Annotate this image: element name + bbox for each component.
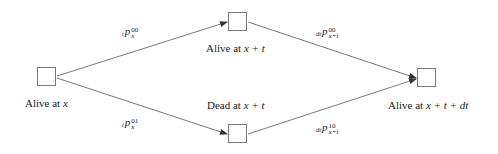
state-box-alive-x bbox=[37, 67, 56, 86]
label-dead-xt: Dead at x + t bbox=[207, 99, 265, 111]
label-var: x + t + dt bbox=[426, 99, 468, 111]
prob-prefix: t bbox=[122, 30, 124, 37]
label-var: x + t bbox=[244, 42, 265, 54]
edge-alive-x-to-dead-xt bbox=[57, 78, 227, 134]
label-text: Alive at bbox=[25, 97, 63, 109]
prob-sub: x+t bbox=[329, 33, 339, 39]
state-box-alive-xt bbox=[228, 12, 247, 31]
label-alive-xtdt: Alive at x + t + dt bbox=[388, 99, 468, 111]
prob-label-10-xt: dtp10x+t bbox=[316, 122, 338, 135]
prob-sub: x+t bbox=[329, 129, 339, 135]
prob-base: p bbox=[322, 121, 328, 133]
prob-prefix: t bbox=[122, 121, 124, 128]
state-box-dead-xt bbox=[228, 124, 247, 143]
state-box-alive-xtdt bbox=[417, 68, 436, 87]
prob-prefix: dt bbox=[316, 126, 321, 133]
edge-alive-x-to-alive-xt bbox=[57, 22, 227, 76]
prob-label-00-xt: dtp00x+t bbox=[316, 26, 338, 39]
label-var: x bbox=[63, 97, 68, 109]
prob-base: p bbox=[322, 25, 328, 37]
prob-label-01-x: tp01x bbox=[122, 117, 138, 130]
label-var: x + t bbox=[244, 99, 265, 111]
prob-base: p bbox=[125, 25, 131, 37]
prob-prefix: dt bbox=[316, 30, 321, 37]
prob-base: p bbox=[125, 116, 131, 128]
label-text: Alive at bbox=[206, 42, 244, 54]
label-text: Alive at bbox=[388, 99, 426, 111]
prob-label-00-x: tp00x bbox=[122, 26, 138, 39]
label-alive-x: Alive at x bbox=[25, 97, 68, 109]
label-text: Dead at bbox=[207, 99, 244, 111]
label-alive-xt: Alive at x + t bbox=[206, 42, 265, 54]
